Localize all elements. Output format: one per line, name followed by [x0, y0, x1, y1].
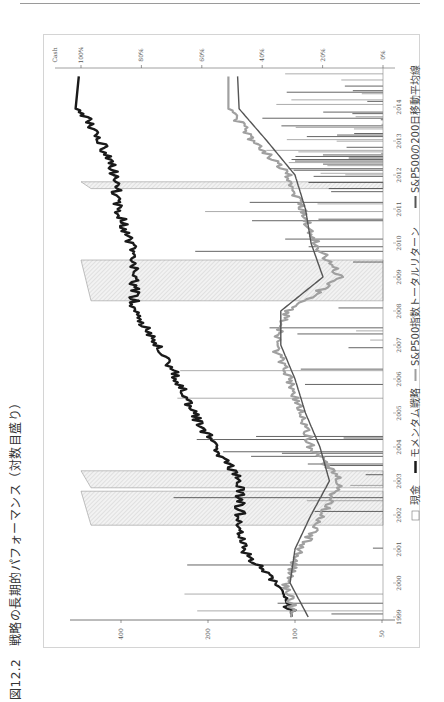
svg-text:2005: 2005 — [395, 405, 402, 420]
svg-text:60%: 60% — [198, 48, 205, 62]
svg-text:モメンタム戦略: モメンタム戦略 — [409, 388, 421, 458]
svg-text:100%: 100% — [77, 46, 84, 63]
svg-text:2008: 2008 — [395, 303, 402, 318]
svg-text:20%: 20% — [319, 48, 326, 62]
svg-text:2011: 2011 — [395, 201, 402, 216]
svg-text:50: 50 — [378, 630, 385, 638]
svg-text:S&P500の200日移動平均線: S&P500の200日移動平均線 — [409, 65, 421, 193]
svg-text:80%: 80% — [137, 48, 144, 62]
series-lines — [76, 76, 343, 617]
svg-text:2009: 2009 — [395, 269, 402, 284]
svg-text:2012: 2012 — [395, 167, 402, 182]
svg-text:2003: 2003 — [395, 473, 402, 488]
svg-text:2002: 2002 — [395, 507, 402, 522]
svg-text:1999: 1999 — [395, 609, 402, 624]
svg-text:2013: 2013 — [395, 133, 402, 148]
svg-text:100: 100 — [291, 628, 298, 640]
svg-text:200: 200 — [204, 628, 211, 640]
svg-text:2006: 2006 — [395, 371, 402, 386]
svg-text:S&P500指数トータルリターン: S&P500指数トータルリターン — [409, 227, 421, 366]
svg-text:Cash: Cash — [51, 47, 58, 62]
svg-text:2007: 2007 — [395, 337, 402, 352]
performance-chart: 501002004000%20%40%60%80%100%Cash1999200… — [0, 0, 444, 702]
svg-text:40%: 40% — [258, 48, 265, 62]
legend: 現金モメンタム戦略S&P500指数トータルリターンS&P500の200日移動平均… — [409, 65, 421, 520]
svg-text:現金: 現金 — [409, 485, 421, 505]
svg-text:2014: 2014 — [395, 99, 402, 114]
svg-text:2000: 2000 — [395, 575, 402, 590]
svg-text:2004: 2004 — [395, 439, 402, 454]
svg-text:0%: 0% — [379, 50, 386, 60]
svg-text:2010: 2010 — [395, 235, 402, 250]
svg-text:400: 400 — [117, 628, 124, 640]
svg-text:2001: 2001 — [395, 541, 402, 556]
